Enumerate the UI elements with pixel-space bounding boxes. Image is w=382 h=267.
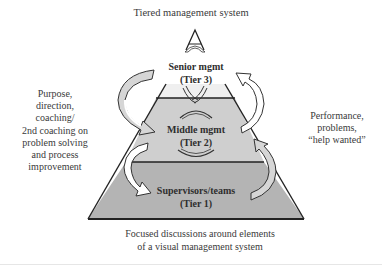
left-annotation-line: improvement — [12, 161, 98, 173]
left-annotation-line: and process — [12, 149, 98, 161]
bottom-caption: Focused discussions around elements of a… — [80, 228, 320, 253]
left-annotation-line: coaching/ — [12, 112, 98, 124]
left-annotation-line: 2nd coaching on — [12, 125, 98, 137]
apex-icon — [185, 30, 205, 52]
tier2-name: Middle mgmt — [146, 124, 246, 137]
diagram-title: Tiered management system — [0, 7, 382, 18]
bottom-caption-line: Focused discussions around elements — [80, 228, 320, 241]
bottom-caption-line: of a visual management system — [80, 241, 320, 254]
tier3-band — [156, 84, 235, 98]
left-annotation-line: Purpose, — [12, 88, 98, 100]
left-annotation: Purpose, direction, coaching/ 2nd coachi… — [12, 88, 98, 173]
right-annotation-line: problems, — [292, 122, 382, 134]
footer-divider — [0, 264, 382, 265]
tier1-label: Supervisors/teams (Tier 1) — [126, 185, 266, 210]
tier3-level: (Tier 3) — [146, 74, 246, 87]
tier3-name: Senior mgmt — [146, 61, 246, 74]
tier3-label: Senior mgmt (Tier 3) — [146, 61, 246, 86]
right-annotation: Performance, problems, “help wanted” — [292, 110, 382, 147]
right-annotation-line: Performance, — [292, 110, 382, 122]
left-annotation-line: direction, — [12, 100, 98, 112]
tier2-level: (Tier 2) — [146, 137, 246, 150]
right-annotation-line: “help wanted” — [292, 134, 382, 146]
tier1-name: Supervisors/teams — [126, 185, 266, 198]
tier1-level: (Tier 1) — [126, 198, 266, 211]
left-annotation-line: problem solving — [12, 137, 98, 149]
tier2-label: Middle mgmt (Tier 2) — [146, 124, 246, 149]
